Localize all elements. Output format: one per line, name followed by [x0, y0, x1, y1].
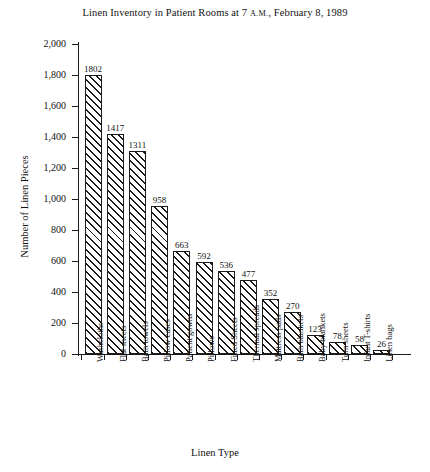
x-axis-category-label: Baby blankets	[318, 313, 327, 362]
x-axis-tick	[81, 355, 82, 360]
plot-area	[78, 44, 410, 354]
y-axis-tick-label: 600	[6, 255, 66, 266]
chart-title-part-before: Linen Inventory in Patient Rooms at 7	[83, 7, 250, 18]
bar-value-label: 663	[166, 240, 197, 250]
x-axis-category-label: Bath towels	[141, 321, 150, 362]
y-axis-tick	[72, 354, 79, 355]
y-axis-tick-label: 1,000	[6, 193, 66, 204]
x-axis-category-label: Turn sheets	[341, 322, 350, 362]
bar-chart: Linen Inventory in Patient Rooms at 7 A.…	[0, 0, 430, 472]
x-axis-category-label: Mattress pads	[274, 315, 283, 363]
x-axis-category-label: Pillows	[207, 336, 216, 362]
bar-washcloths	[85, 75, 102, 354]
y-axis-label: Number of Linen Pieces	[19, 122, 30, 292]
x-axis-category-label: Thermal spreads	[252, 305, 261, 362]
x-axis-category-label: Infant T-shirts	[363, 314, 372, 362]
x-axis-category-label: Bath blankets	[296, 315, 305, 362]
y-axis-tick-label: 0	[6, 348, 66, 359]
bar-value-label: 270	[277, 301, 308, 311]
x-axis-category-label: Linen bags	[385, 324, 394, 362]
y-axis-tick-label: 1,600	[6, 100, 66, 111]
y-axis-tick-label: 200	[6, 317, 66, 328]
y-axis-tick-label: 1,400	[6, 131, 66, 142]
y-axis-tick-label: 1,800	[6, 69, 66, 80]
bar-value-label: 352	[255, 288, 286, 298]
bar-value-label: 958	[144, 195, 175, 205]
x-axis-category-label: Pillow cases	[163, 319, 172, 362]
chart-title-part-smallcaps: A.M.	[250, 9, 269, 18]
bar-value-label: 1802	[78, 64, 109, 74]
x-axis-category-label: Patient gowns	[185, 314, 194, 362]
x-axis-category-label: Fitted Sheets	[230, 317, 239, 362]
bar-value-label: 477	[233, 269, 264, 279]
x-axis-category-label: Flat sheets	[119, 325, 128, 362]
bar-value-label: 1311	[122, 140, 153, 150]
y-axis-tick-label: 2,000	[6, 38, 66, 49]
bar-flat-sheets	[107, 134, 124, 354]
chart-title: Linen Inventory in Patient Rooms at 7 A.…	[0, 7, 430, 18]
y-axis-tick-label: 1,200	[6, 162, 66, 173]
x-axis-category-label: Washcloths	[96, 323, 105, 362]
y-axis-tick-label: 400	[6, 286, 66, 297]
chart-title-part-after: , February 8, 1989	[268, 7, 347, 18]
y-axis-tick-label: 800	[6, 224, 66, 235]
bar-value-label: 1417	[100, 123, 131, 133]
x-axis-label: Linen Type	[0, 447, 430, 458]
